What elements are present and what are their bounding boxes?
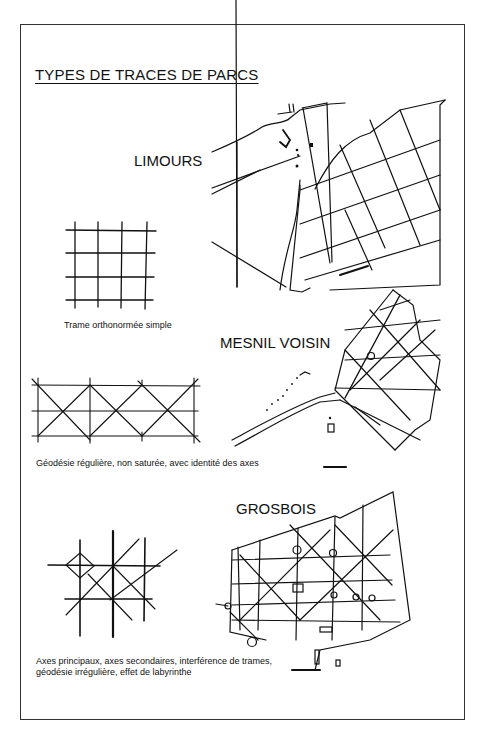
drawings-canvas (0, 0, 478, 739)
irregular-geodesy-schema (48, 531, 177, 637)
mesnil-voisin-plan (232, 290, 440, 467)
grosbois-plan (216, 492, 410, 670)
limours-plan (212, 0, 445, 292)
orthonormal-grid-schema (66, 222, 156, 309)
regular-geodesy-schema (32, 378, 200, 443)
